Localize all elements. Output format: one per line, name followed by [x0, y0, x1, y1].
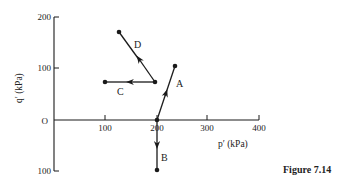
path-label-a: A	[176, 78, 184, 89]
x-tick-400: 400	[252, 123, 266, 133]
path-label-d: D	[134, 39, 141, 50]
x-tick-100: 100	[98, 123, 112, 133]
stress-path-d	[117, 30, 155, 82]
y-axis-label: q′ (kPa)	[14, 73, 25, 103]
y-tick-neg100: 100	[38, 166, 52, 176]
y-tick-100: 100	[38, 63, 52, 73]
initial-stress-point	[155, 118, 160, 123]
stress-path-a	[157, 64, 177, 120]
y-axis	[54, 17, 59, 171]
x-axis-label: p′ (kPa)	[218, 139, 248, 150]
path-label-b: B	[161, 152, 168, 163]
stress-path-c	[103, 80, 155, 85]
origin-label: O	[42, 116, 49, 126]
stress-path-diagram: 200 100 100 O 100 200 300 400 p′ (kPa) q…	[0, 0, 343, 190]
path-label-c: C	[117, 86, 124, 97]
figure-caption: Figure 7.14	[283, 164, 331, 175]
x-tick-300: 300	[200, 123, 214, 133]
stress-point-node	[153, 80, 158, 85]
y-tick-200: 200	[38, 12, 52, 22]
